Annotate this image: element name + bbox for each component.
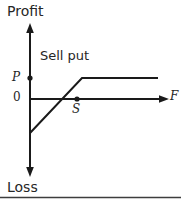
x-tick-label-strike: S bbox=[72, 103, 80, 115]
chart-title: Sell put bbox=[40, 49, 89, 62]
p-tick-marker bbox=[27, 75, 32, 80]
x-axis-right-arrow-icon bbox=[159, 95, 169, 103]
y-axis-up-arrow-icon bbox=[26, 23, 34, 33]
loss-axis-label: Loss bbox=[7, 180, 38, 194]
payoff-line bbox=[30, 78, 158, 133]
y-axis-down-arrow-icon bbox=[26, 167, 34, 177]
x-axis-label: F bbox=[170, 90, 178, 102]
chart-canvas bbox=[0, 0, 181, 204]
payoff-diagram: Profit Sell put P 0 S F Loss bbox=[0, 0, 181, 204]
s-tick-marker bbox=[74, 96, 79, 101]
x-axis-group bbox=[30, 95, 169, 103]
y-tick-label-zero: 0 bbox=[13, 91, 21, 103]
profit-axis-label: Profit bbox=[7, 4, 44, 18]
y-tick-label-premium: P bbox=[12, 71, 20, 83]
